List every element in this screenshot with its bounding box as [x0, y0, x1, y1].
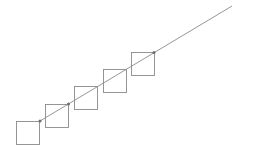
diagram-canvas [0, 0, 260, 162]
vertex-dot-5 [153, 51, 156, 54]
vertex-dot-1 [39, 120, 42, 123]
square-1 [17, 122, 40, 145]
vertex-dot-2 [67, 103, 70, 106]
